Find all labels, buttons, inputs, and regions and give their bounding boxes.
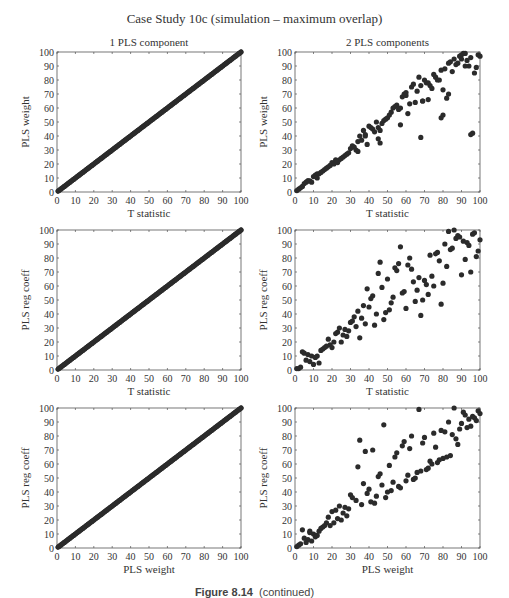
scatter-point: [315, 353, 320, 358]
y-tick-label: 30: [44, 145, 54, 156]
scatter-point: [326, 515, 331, 520]
x-tick-label: 20: [327, 373, 337, 384]
x-tick-label: 50: [144, 195, 154, 206]
x-tick-label: 30: [107, 373, 117, 384]
scatter-point: [426, 97, 431, 102]
x-tick-label: 30: [346, 551, 356, 562]
x-tick-label: 50: [383, 373, 393, 384]
y-tick-label: 20: [282, 515, 292, 526]
scatter-point: [366, 487, 371, 492]
x-tick-label: 80: [438, 195, 448, 206]
scatter-point: [365, 142, 370, 147]
scatter-point: [413, 100, 418, 105]
y-axis-label: PLS reg coeff: [257, 269, 269, 330]
scatter-point: [442, 241, 447, 246]
x-tick-label: 100: [473, 373, 488, 384]
y-tick-label: 50: [44, 295, 54, 306]
scatter-point: [468, 132, 473, 137]
y-tick-label: 10: [282, 529, 292, 540]
y-tick-label: 10: [44, 529, 54, 540]
x-tick-label: 60: [401, 195, 411, 206]
x-tick-label: 60: [401, 373, 411, 384]
scatter-point: [331, 339, 336, 344]
x-tick-label: 30: [107, 195, 117, 206]
scatter-point: [420, 297, 425, 302]
scatter-point: [353, 324, 358, 329]
scatter-point: [355, 464, 360, 469]
panel-title: 1 PLS component: [110, 36, 189, 48]
scatter-point: [403, 478, 408, 483]
scatter-point: [329, 345, 334, 350]
scatter-point: [238, 227, 243, 232]
x-tick-label: 90: [457, 373, 467, 384]
scatter-point: [424, 282, 429, 287]
x-tick-label: 10: [309, 551, 319, 562]
x-tick-label: 0: [55, 373, 60, 384]
y-axis-label: PLS reg coeff: [19, 447, 31, 508]
y-axis-label: PLS reg coeff: [257, 447, 269, 508]
scatter-point: [450, 69, 455, 74]
scatter-point: [407, 446, 412, 451]
scatter-point: [429, 86, 434, 91]
scatter-point: [390, 295, 395, 300]
data-points: [294, 405, 482, 549]
y-tick-label: 40: [282, 309, 292, 320]
y-tick-label: 20: [44, 159, 54, 170]
scatter-point: [450, 432, 455, 437]
scatter-point: [389, 300, 394, 305]
scatter-point: [387, 463, 392, 468]
x-tick-label: 40: [126, 551, 136, 562]
scatter-point: [446, 229, 451, 234]
x-tick-label: 30: [346, 373, 356, 384]
scatter-point: [416, 75, 421, 80]
y-tick-label: 60: [44, 103, 54, 114]
y-tick-label: 40: [44, 131, 54, 142]
y-axis-label: PLS weight: [19, 96, 31, 148]
x-tick-label: 40: [364, 551, 374, 562]
y-tick-label: 70: [44, 445, 54, 456]
figure-caption-label: Figure 8.14: [195, 586, 253, 598]
scatter-point: [477, 411, 482, 416]
scatter-panel-row3-col2: 0102030405060708090100010203040506070809…: [257, 403, 488, 576]
scatter-point: [418, 313, 423, 318]
scatter-point: [415, 288, 420, 293]
y-tick-label: 40: [282, 487, 292, 498]
x-tick-label: 70: [420, 551, 430, 562]
x-tick-label: 40: [364, 373, 374, 384]
x-tick-label: 80: [438, 551, 448, 562]
scatter-point: [426, 80, 431, 85]
scatter-point: [446, 91, 451, 96]
scatter-point: [452, 405, 457, 410]
scatter-point: [440, 87, 445, 92]
scatter-point: [337, 325, 342, 330]
scatter-point: [298, 541, 303, 546]
x-tick-label: 20: [89, 195, 99, 206]
y-tick-label: 0: [287, 543, 292, 554]
scatter-point: [339, 517, 344, 522]
scatter-point: [429, 274, 434, 279]
y-tick-label: 70: [282, 89, 292, 100]
x-axis-label: PLS weight: [362, 563, 414, 575]
x-tick-label: 40: [364, 195, 374, 206]
scatter-point: [442, 66, 447, 71]
y-tick-label: 90: [44, 239, 54, 250]
scatter-point: [298, 365, 303, 370]
scatter-point: [413, 299, 418, 304]
scatter-point: [344, 513, 349, 518]
scatter-point: [468, 269, 473, 274]
scatter-point: [390, 480, 395, 485]
scatter-point: [413, 475, 418, 480]
x-tick-label: 10: [309, 373, 319, 384]
y-tick-label: 90: [44, 61, 54, 72]
scatter-point: [402, 289, 407, 294]
scatter-point: [426, 466, 431, 471]
scatter-point: [396, 261, 401, 266]
scatter-point: [477, 237, 482, 242]
y-tick-label: 80: [44, 75, 54, 86]
y-tick-label: 60: [44, 281, 54, 292]
scatter-point: [407, 101, 412, 106]
x-tick-label: 70: [420, 373, 430, 384]
x-tick-label: 70: [420, 195, 430, 206]
x-tick-label: 90: [218, 373, 228, 384]
scatter-point: [405, 111, 410, 116]
